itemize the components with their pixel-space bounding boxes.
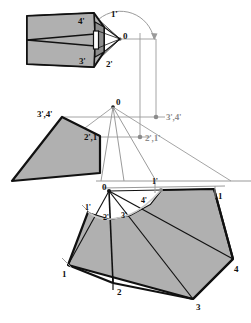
label-development-4prime: 4' [141, 197, 147, 205]
label-front-view-2prime-1prime-rotated: 2',1' [145, 134, 160, 143]
top-view-slit [94, 31, 99, 49]
label-top-view-apex-O: 0 [123, 32, 127, 41]
top-view-tip-edge-lower [104, 39, 120, 52]
label-front-view-3prime-4prime: 3',4' [37, 110, 52, 119]
label-development-apex-O: 0 [102, 183, 106, 192]
label-development-2: 2 [117, 288, 121, 297]
label-front-view-apex-O: 0 [116, 98, 120, 107]
label-development-3: 3 [196, 303, 200, 312]
label-top-view-2prime: 2' [106, 60, 113, 69]
label-development-4: 4 [234, 265, 238, 274]
label-development-1-left: 1 [62, 270, 66, 279]
drawing-sheet: 4' 1' 0 3' 2' 0 3',4' 2',1' 3',4' 2',1' … [0, 0, 251, 323]
development-top-reference-line [104, 186, 225, 188]
development-group [62, 181, 233, 299]
label-top-view-1prime: 1' [111, 10, 118, 19]
front-view-point-21-rotated [138, 135, 143, 140]
label-development-1-right: 1 [218, 192, 222, 201]
technical-drawing-svg [0, 0, 251, 323]
label-front-view-3prime-4prime-rotated: 3',4' [166, 113, 181, 122]
top-view-tip-edge-upper [104, 27, 120, 39]
front-view-ray-a [101, 107, 113, 181]
front-view-ray-c [113, 107, 156, 181]
development-point-1p-top [159, 188, 163, 192]
front-view-ray-b [113, 107, 124, 181]
projection-lines-group [140, 39, 156, 137]
label-top-view-3prime: 3' [79, 57, 86, 66]
label-top-view-4prime: 4' [78, 17, 85, 26]
label-development-1prime-top: 1' [152, 178, 158, 186]
label-development-2prime: 2' [103, 214, 109, 222]
label-front-view-2prime-1prime: 2',1' [84, 133, 99, 142]
front-view-point-34-rotated [154, 115, 159, 120]
top-view-group [27, 11, 158, 67]
label-development-1prime-left: 1' [85, 204, 91, 212]
label-development-3prime: 3' [121, 212, 127, 220]
